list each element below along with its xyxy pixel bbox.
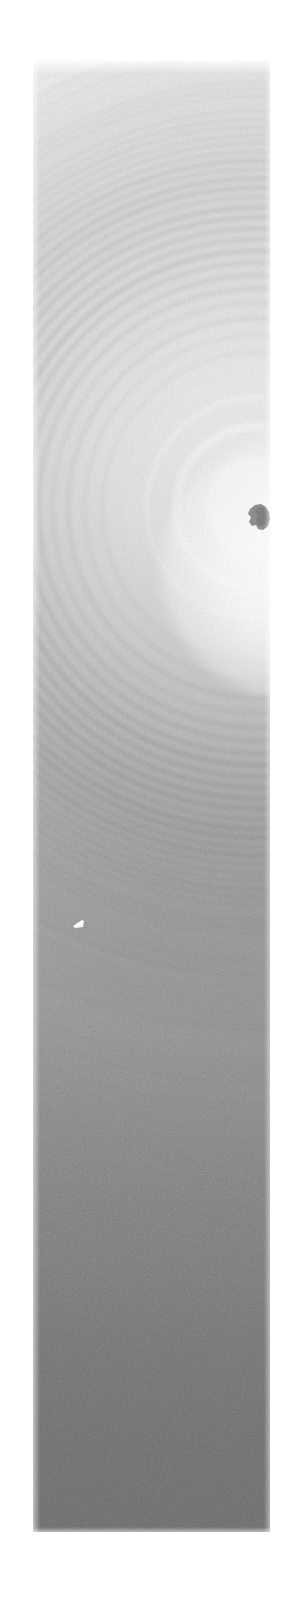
interference-ring <box>33 60 270 1190</box>
interference-ring <box>33 60 270 1136</box>
interference-ring <box>33 60 270 1071</box>
interference-ring <box>33 60 270 1257</box>
interference-ring <box>33 60 270 1077</box>
interference-ring <box>33 60 270 1048</box>
interference-ring <box>33 60 270 1195</box>
interference-ring <box>33 60 270 1156</box>
interference-ring <box>33 60 270 1222</box>
interference-ring <box>33 60 270 1094</box>
interference-ring <box>33 60 270 1253</box>
interference-ring <box>33 60 270 1166</box>
interference-ring <box>33 60 270 1278</box>
interference-ring <box>33 60 270 1227</box>
fringe-layer-fine <box>33 60 270 1532</box>
interference-ring <box>33 60 270 1054</box>
interference-ring <box>33 60 270 1181</box>
interference-ring <box>33 60 270 1083</box>
interference-ring <box>33 60 270 1131</box>
interference-ring <box>33 60 270 1236</box>
interference-ring <box>33 60 270 1146</box>
interference-ring <box>33 60 270 1126</box>
interference-ring <box>33 60 270 1185</box>
interference-ring <box>33 60 270 1213</box>
interference-ring <box>33 60 270 1171</box>
interference-ring <box>33 60 270 1115</box>
page-canvas <box>0 0 294 1614</box>
interference-ring <box>33 60 270 1249</box>
interference-ring <box>33 60 270 1151</box>
interference-ring <box>33 60 270 1161</box>
interference-ring <box>33 60 270 1270</box>
interference-ring <box>33 60 270 1099</box>
interference-ring <box>33 60 270 1176</box>
interference-ring <box>33 60 270 1110</box>
interference-ring <box>33 60 270 1262</box>
interference-ring <box>33 60 270 1204</box>
interference-ring <box>33 60 270 1088</box>
interference-ring <box>33 60 270 1060</box>
interference-ring <box>33 60 270 1231</box>
interference-ring <box>33 60 270 1244</box>
interference-ring <box>33 60 270 1121</box>
interference-ring <box>33 60 270 1218</box>
interference-ring <box>33 60 270 1240</box>
photographic-plate <box>33 60 270 1532</box>
interference-ring <box>33 60 270 1274</box>
interference-ring <box>33 60 270 1209</box>
interference-ring <box>33 60 270 1141</box>
interference-ring <box>33 60 270 1266</box>
interference-ring <box>33 60 270 1105</box>
interference-ring <box>33 60 270 1042</box>
interference-ring <box>33 60 270 1199</box>
interference-ring <box>33 60 270 1066</box>
